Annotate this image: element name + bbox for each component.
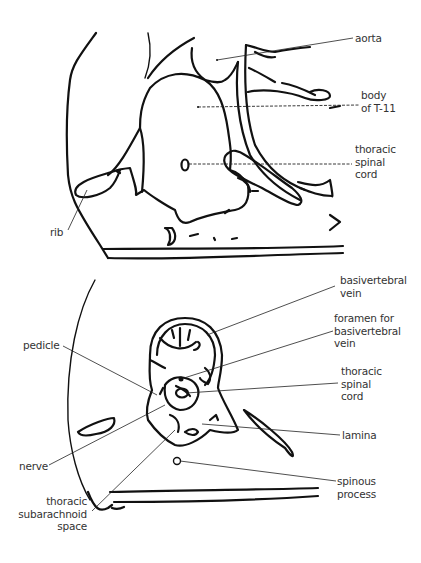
table-line-lower: [108, 253, 343, 258]
table-line-upper: [103, 246, 343, 249]
body-outline-curve: [67, 33, 108, 258]
vertebral-body-t11: [108, 48, 248, 223]
label-nerve: nerve: [19, 460, 48, 473]
top-panel-drawing: [67, 33, 360, 258]
spinal-cord-marker: [182, 160, 189, 171]
body-arc: [68, 280, 95, 500]
label-lamina: lamina: [342, 429, 376, 442]
label-thoracic-subarachnoid-space: thoracic subarachnoid space: [15, 495, 87, 533]
label-aorta: aorta: [355, 32, 382, 45]
label-thoracic-spinal-cord-bottom: thoracic spinal cord: [341, 365, 382, 403]
label-pedicle: pedicle: [23, 339, 59, 352]
rib-outline: [75, 170, 120, 197]
label-foramen-basivertebral-vein: foramen for basivertebral vein: [334, 312, 401, 350]
label-thoracic-spinal-cord-top: thoracic spinal cord: [355, 143, 396, 181]
label-basivertebral-vein: basivertebral vein: [340, 274, 407, 299]
foramen-dot: [179, 377, 184, 382]
spinous-process-marker: [174, 458, 181, 465]
label-rib: rib: [50, 226, 63, 239]
bottom-panel-drawing: [49, 280, 340, 511]
label-spinous-process: spinous process: [337, 475, 376, 500]
label-body-of-t11: body of T-11: [361, 89, 396, 114]
